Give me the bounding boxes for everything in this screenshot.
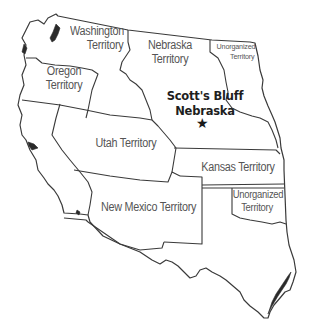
label-line: Territory [213, 52, 260, 62]
label-unorganized-territory-south: Unorganized Territory [233, 188, 282, 214]
label-line: Unorganized [233, 188, 282, 201]
label-line: Oregon [39, 64, 89, 78]
label-line: New Mexico Territory [101, 200, 191, 214]
label-oregon-territory: Oregon Territory [39, 64, 89, 92]
label-line: Territory [39, 78, 89, 92]
label-line: Territory [141, 52, 199, 66]
label-unorganized-territory-north: Unorganized Territory [213, 42, 260, 62]
label-line: Unorganized [213, 42, 260, 52]
label-line: Washington [66, 24, 129, 38]
star-icon: ★ [196, 116, 209, 130]
label-washington-territory: Washington Territory [66, 24, 129, 52]
label-kansas-territory: Kansas Territory [193, 160, 283, 174]
label-line: Scott's Bluff [150, 89, 260, 104]
label-nebraska-territory: Nebraska Territory [141, 38, 199, 66]
label-line: Territory [66, 38, 129, 52]
label-new-mexico-territory: New Mexico Territory [101, 200, 191, 214]
label-line: Kansas Territory [193, 160, 283, 174]
boundary-california-south [64, 218, 88, 222]
label-line: Territory [233, 201, 282, 214]
label-utah-territory: Utah Territory [81, 136, 171, 150]
label-line: Nebraska [141, 38, 199, 52]
label-line: Utah Territory [81, 136, 171, 150]
